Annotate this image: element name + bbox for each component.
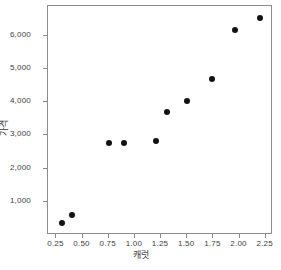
x-tick-mark xyxy=(186,234,187,238)
x-tick-label: 0.75 xyxy=(100,240,116,248)
x-axis-label: 캐럿 xyxy=(0,250,281,260)
x-tick-mark xyxy=(108,234,109,238)
y-axis-label: 가격 xyxy=(0,108,9,148)
x-tick-mark xyxy=(82,234,83,238)
x-tick-mark xyxy=(212,234,213,238)
x-tick-label: 2.00 xyxy=(230,240,246,248)
x-tick-mark xyxy=(55,234,56,238)
x-tick-label: 0.50 xyxy=(73,240,89,248)
x-tick-label: 0.25 xyxy=(47,240,63,248)
x-tick-label: 1.50 xyxy=(178,240,194,248)
x-tick-mark xyxy=(134,234,135,238)
x-tick-label: 1.00 xyxy=(126,240,142,248)
x-tick-label: 2.25 xyxy=(256,240,272,248)
x-axis: 0.250.500.751.001.251.501.752.002.25 xyxy=(0,0,281,270)
x-tick-mark xyxy=(265,234,266,238)
x-tick-label: 1.75 xyxy=(204,240,220,248)
x-tick-mark xyxy=(160,234,161,238)
x-tick-label: 1.25 xyxy=(152,240,168,248)
x-tick-mark xyxy=(239,234,240,238)
scatter-chart: 1,0002,0003,0004,0005,0006,000 0.250.500… xyxy=(0,0,281,270)
